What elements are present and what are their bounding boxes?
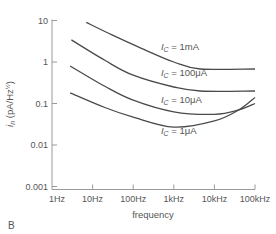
x-axis-ticks: 1Hz10Hz100Hz1kHz10kHz100kHz: [49, 185, 271, 204]
axes: [52, 20, 255, 190]
y-tick-label: 0.001: [25, 182, 48, 192]
curve-label: IC = 1μA: [161, 125, 197, 137]
curve-label: IC = 10μA: [161, 94, 203, 106]
x-tick-label: 100kHz: [240, 194, 271, 204]
curve-label: IC = 100μA: [161, 67, 208, 79]
x-tick-label: 10kHz: [202, 194, 228, 204]
y-tick-label: 0.1: [35, 99, 48, 109]
curve-label: IC = 1mA: [161, 41, 200, 53]
noise-current-chart: 1010.10.010.001 1Hz10Hz100Hz1kHz10kHz100…: [0, 0, 276, 234]
panel-label: B: [8, 220, 15, 231]
y-tick-label: 1: [43, 57, 48, 67]
y-tick-label: 10: [38, 16, 48, 26]
x-tick-label: 1kHz: [164, 194, 185, 204]
y-tick-label: 0.01: [30, 140, 48, 150]
y-axis-title: in (pA/Hz½): [4, 81, 16, 127]
x-axis-title: frequency: [132, 209, 174, 220]
x-tick-label: 1Hz: [49, 194, 66, 204]
x-tick-label: 100Hz: [120, 194, 147, 204]
x-tick-label: 10Hz: [82, 194, 104, 204]
